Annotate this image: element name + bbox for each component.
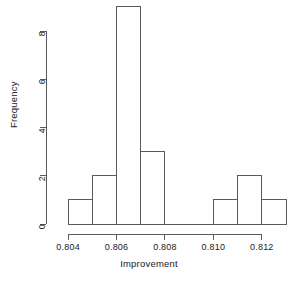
x-tick-label: 0.810 (202, 242, 226, 252)
x-tick-label: 0.808 (153, 242, 177, 252)
histogram-bars (68, 7, 286, 224)
x-tick-label: 0.806 (105, 242, 129, 252)
y-tick-label: 2 (37, 176, 47, 181)
histogram-bar (262, 200, 286, 224)
histogram-plot: 0.8040.8060.8080.8100.812 02468 Improvem… (0, 0, 298, 281)
x-tick-label: 0.812 (250, 242, 274, 252)
y-tick-label: 4 (37, 128, 47, 133)
y-tick-label: 6 (37, 79, 47, 84)
histogram-bar (238, 176, 262, 224)
x-axis-title: Improvement (0, 258, 298, 269)
y-axis-title: Frequency (8, 81, 19, 128)
histogram-bar (117, 7, 141, 224)
y-tick-label: 8 (37, 31, 47, 36)
y-tick-label: 0 (37, 224, 47, 229)
plot-canvas (0, 0, 298, 281)
histogram-bar (141, 152, 165, 224)
x-tick-label: 0.804 (56, 242, 80, 252)
x-axis (68, 234, 262, 240)
histogram-bar (68, 200, 92, 224)
histogram-bar (92, 176, 116, 224)
histogram-bar (213, 200, 237, 224)
